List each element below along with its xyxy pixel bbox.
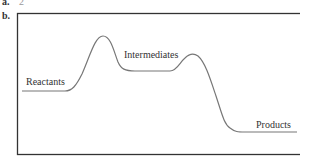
intermediates-label: Intermediates (124, 50, 178, 60)
reactants-label: Reactants (26, 77, 65, 87)
products-label: Products (256, 120, 291, 130)
